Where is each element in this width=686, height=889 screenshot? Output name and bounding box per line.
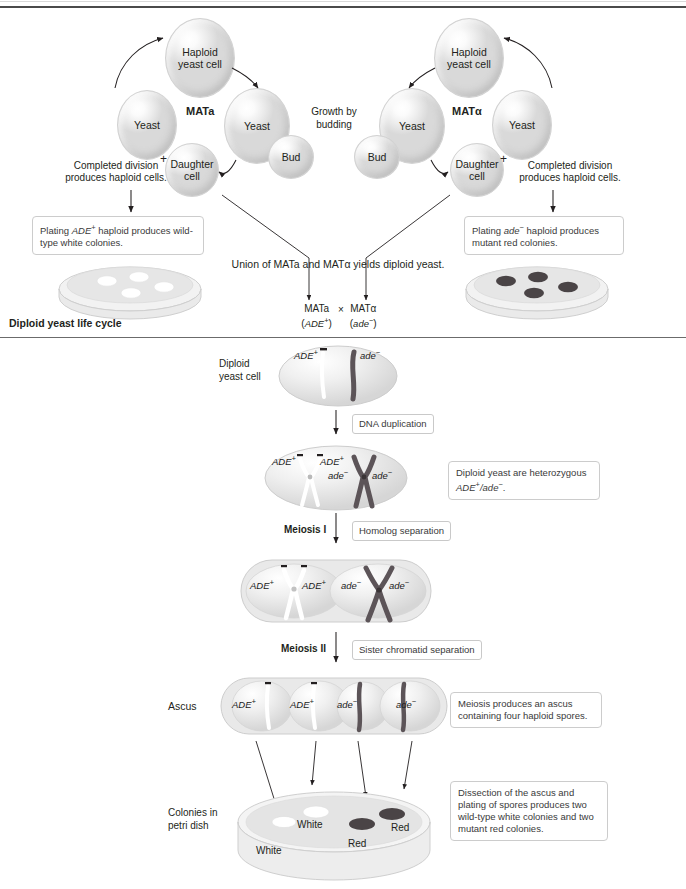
colony-white xyxy=(272,816,296,827)
duplicated-label-ade-plus-1: ADE+ xyxy=(272,454,296,467)
cross-notation: MATa (ADE+) × MATα (ade−) xyxy=(284,303,394,330)
callout-right-gene: ade xyxy=(504,225,520,236)
colony-red xyxy=(349,818,375,830)
meiosis-i-label-ade-minus-2: ade− xyxy=(389,578,409,591)
ascus-spore-label-1: ADE+ xyxy=(232,697,256,710)
callout-heterozygous: Diploid yeast are heterozygous ADE+/ade−… xyxy=(448,461,600,500)
duplicated-label-ade-minus-1: ade− xyxy=(328,468,348,481)
meiosis-i-label-ade-minus-1: ade− xyxy=(341,578,361,591)
ascus-spore-label-2: ADE+ xyxy=(290,697,314,710)
cross-times-symbol: × xyxy=(338,303,344,316)
callout-ascus: Meiosis produces an ascus containing fou… xyxy=(450,692,602,728)
callout-left-pre: Plating xyxy=(40,225,72,236)
meiosis-i-label-ade-plus-1: ADE+ xyxy=(250,578,274,591)
callout-right-pre: Plating xyxy=(472,225,504,236)
colony-label-red-1: Red xyxy=(348,838,366,850)
callout-dissection: Dissection of the ascus and plating of s… xyxy=(450,781,608,841)
tag-homolog-separation: Homolog separation xyxy=(352,521,451,541)
colony-white xyxy=(129,272,149,282)
callout-plating-ade-minus: Plating ade− haploid produces mutant red… xyxy=(464,216,624,255)
colony-red xyxy=(558,282,578,292)
diploid-allele-ade-minus: ade− xyxy=(360,348,380,361)
cross-right-type: MATα xyxy=(350,303,377,315)
heterozygous-line1: Diploid yeast are heterozygous xyxy=(456,467,586,478)
callout-left-gene: ADE xyxy=(72,225,92,236)
meiosis-i-label-ade-plus-2: ADE+ xyxy=(302,578,326,591)
colony-red xyxy=(528,272,548,282)
duplicated-label-ade-minus-2: ade− xyxy=(372,468,392,481)
cross-left-type: MATa xyxy=(301,303,332,315)
ascus-spore-label-4: ade− xyxy=(396,697,416,710)
colony-label-white-2: White xyxy=(297,819,323,831)
colony-red xyxy=(496,276,516,286)
diploid-allele-ade-plus: ADE+ xyxy=(294,348,318,361)
petri-dish-tetrad xyxy=(234,784,434,884)
colony-white xyxy=(121,288,141,298)
arrow-meiosis-i xyxy=(328,513,348,549)
callout-plating-ade-plus: Plating ADE+ haploid produces wild-type … xyxy=(32,216,204,255)
colonies-in-petri-dish-label: Colonies in petri dish xyxy=(168,806,238,832)
centromere-mark xyxy=(320,348,327,350)
label-meiosis-i: Meiosis I xyxy=(284,524,326,536)
diploid-cell-label: Diploid yeast cell xyxy=(219,357,283,383)
petri-dish-red-colonies xyxy=(462,255,612,317)
colony-red xyxy=(524,288,544,298)
colony-white xyxy=(154,282,174,292)
duplicated-label-ade-plus-2: ADE+ xyxy=(320,454,344,467)
petri-dish-white-colonies xyxy=(55,255,205,317)
heterozygous-gene1: ADE xyxy=(456,482,476,493)
ascus-spore-label-3: ade− xyxy=(337,697,357,710)
tag-dna-duplication: DNA duplication xyxy=(352,414,434,434)
section-label-diploid-life-cycle: Diploid yeast life cycle xyxy=(9,317,122,329)
cross-left-genotype: (ADE+) xyxy=(301,315,332,330)
arrow-dna-duplication xyxy=(328,410,348,442)
arrow-meiosis-ii xyxy=(328,632,348,668)
ascus-label: Ascus xyxy=(168,700,197,712)
tag-sister-chromatid-separation: Sister chromatid separation xyxy=(352,640,482,660)
colony-label-white-1: White xyxy=(256,845,282,857)
colony-white xyxy=(97,276,117,286)
colony-label-red-2: Red xyxy=(391,822,409,834)
label-meiosis-ii: Meiosis II xyxy=(281,643,326,655)
colony-red xyxy=(379,808,405,820)
cross-right-genotype: (ade−) xyxy=(350,315,377,330)
heterozygous-gene2: ade xyxy=(483,482,499,493)
union-statement: Union of MATa and MATα yields diploid ye… xyxy=(214,258,462,270)
colony-white xyxy=(303,806,329,818)
